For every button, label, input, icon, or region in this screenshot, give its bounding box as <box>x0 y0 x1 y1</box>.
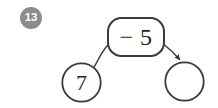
function-machine-diagram <box>0 0 218 108</box>
connector-start-to-operation <box>95 46 108 67</box>
connector-operation-to-result <box>165 45 180 59</box>
worksheet-problem-item: 13 7 − 5 <box>0 0 218 108</box>
operation-node-box <box>108 18 164 56</box>
start-node-circle <box>62 63 100 101</box>
result-node-circle[interactable] <box>165 62 203 100</box>
